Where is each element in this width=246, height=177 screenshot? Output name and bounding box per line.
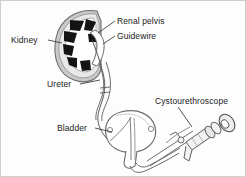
label-ureter: Ureter	[47, 80, 71, 89]
label-guidewire: Guidewire	[117, 32, 156, 41]
anatomical-diagram: Kidney Ureter Renal pelvis Guidewire Bla…	[0, 0, 246, 177]
label-kidney: Kidney	[11, 36, 38, 45]
ureteral-orifice	[148, 126, 153, 131]
label-bladder: Bladder	[57, 124, 87, 133]
label-cystourethroscope: Cystourethroscope	[155, 97, 228, 106]
scope-stopcock	[178, 137, 184, 143]
label-renal-pelvis: Renal pelvis	[117, 17, 165, 26]
diagram-canvas	[0, 0, 246, 177]
